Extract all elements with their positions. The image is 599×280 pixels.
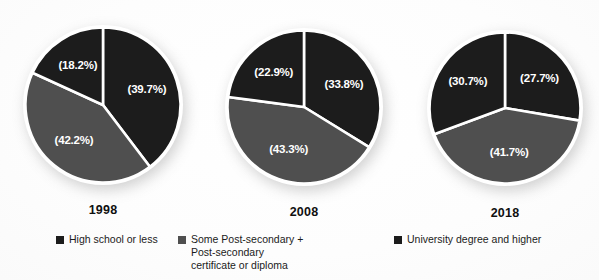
slice-label: (43.3%) bbox=[269, 143, 308, 155]
slice-label: (22.9%) bbox=[254, 66, 293, 78]
pie-year-label-1998: 1998 bbox=[43, 203, 163, 217]
legend-swatch-high-school-or-less bbox=[56, 236, 64, 244]
pie-chart-1998: (39.7%)(42.2%)(18.2%) bbox=[7, 9, 199, 201]
pie-svg-2008: (33.8%)(43.3%)(22.9%) bbox=[209, 12, 399, 202]
pie-chart-2018: (27.7%)(41.7%)(30.7%) bbox=[411, 14, 599, 202]
slice-label: (33.8%) bbox=[325, 78, 364, 90]
pie-chart-2008: (33.8%)(43.3%)(22.9%) bbox=[209, 12, 399, 202]
legend-item-some-post-secondary[interactable]: Some Post-secondary + Post-secondary cer… bbox=[178, 233, 378, 272]
slice-label: (41.7%) bbox=[490, 146, 529, 158]
pie-svg-2018: (27.7%)(41.7%)(30.7%) bbox=[411, 14, 599, 202]
legend-item-high-school-or-less[interactable]: High school or less bbox=[56, 233, 158, 246]
slice-label: (30.7%) bbox=[448, 75, 487, 87]
slice-label: (18.2%) bbox=[58, 59, 97, 71]
legend-label-university-degree: University degree and higher bbox=[407, 233, 541, 246]
slice-label: (27.7%) bbox=[520, 72, 559, 84]
legend-label-some-post-secondary: Some Post-secondary + Post-secondary cer… bbox=[191, 233, 303, 272]
slice-label: (42.2%) bbox=[55, 134, 94, 146]
pie-year-label-2008: 2008 bbox=[244, 205, 364, 219]
slice-label: (39.7%) bbox=[128, 83, 167, 95]
pie-year-label-2018: 2018 bbox=[445, 206, 565, 220]
legend-item-university-degree[interactable]: University degree and higher bbox=[394, 233, 541, 246]
pie-svg-1998: (39.7%)(42.2%)(18.2%) bbox=[7, 9, 199, 201]
legend-swatch-university-degree bbox=[394, 236, 402, 244]
chart-legend: High school or less Some Post-secondary … bbox=[0, 233, 596, 279]
legend-swatch-some-post-secondary bbox=[178, 236, 186, 244]
legend-label-high-school-or-less: High school or less bbox=[69, 233, 158, 246]
